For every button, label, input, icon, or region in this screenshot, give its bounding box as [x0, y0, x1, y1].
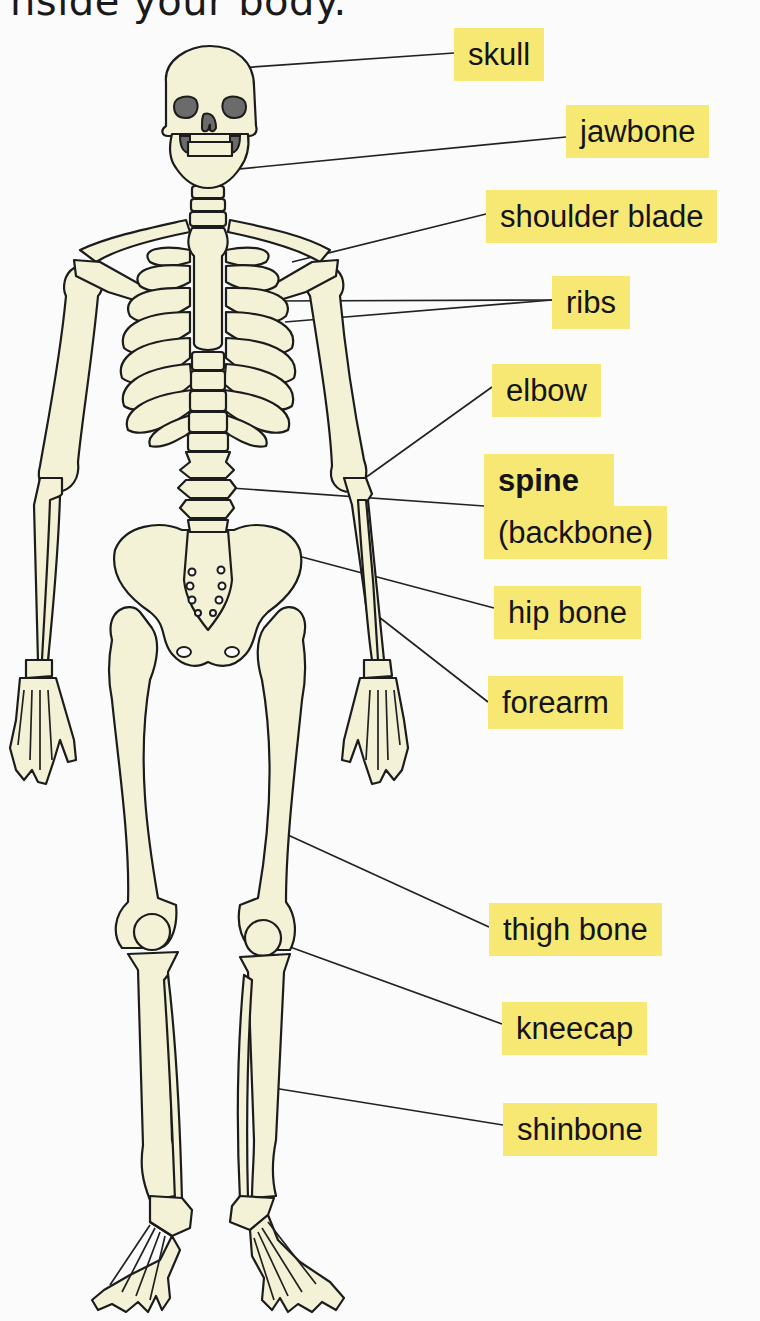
- label-spine: spine: [484, 454, 614, 507]
- label-elbow: elbow: [492, 364, 601, 417]
- label-kneecap: kneecap: [502, 1002, 647, 1055]
- skull: [162, 46, 256, 188]
- neck: [190, 186, 226, 226]
- label-backbone: (backbone): [484, 506, 667, 559]
- right-arm: [306, 268, 408, 784]
- label-shoulder-blade: shoulder blade: [486, 190, 717, 243]
- label-shinbone: shinbone: [503, 1103, 657, 1156]
- label-ribs: ribs: [552, 276, 630, 329]
- label-skull: skull: [454, 28, 544, 81]
- label-hip-bone: hip bone: [494, 586, 641, 639]
- left-arm: [10, 268, 102, 784]
- left-leg: [92, 607, 192, 1312]
- label-thigh-bone: thigh bone: [489, 903, 662, 956]
- label-jawbone: jawbone: [566, 105, 709, 158]
- label-forearm: forearm: [488, 676, 623, 729]
